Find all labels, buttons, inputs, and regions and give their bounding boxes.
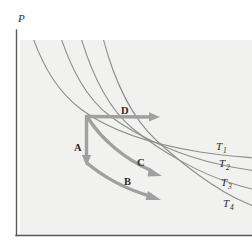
isotherm-label-t4-sub: 4 bbox=[230, 203, 234, 212]
process-arrow-d-shaft bbox=[85, 117, 151, 118]
pv-isotherm-figure: P A B C D T 1 T 2 T 3 T 4 bbox=[0, 0, 252, 247]
isotherm-label-t3-sub: 3 bbox=[227, 182, 232, 191]
process-label-a: A bbox=[74, 142, 82, 153]
isotherm-label-t2-sub: 2 bbox=[226, 163, 230, 172]
isotherm-label-t3-base: T bbox=[221, 176, 228, 188]
process-label-d: D bbox=[121, 105, 129, 116]
isotherm-label-t2-base: T bbox=[219, 157, 226, 169]
y-axis-label: P bbox=[17, 12, 25, 24]
isotherm-label-t1-sub: 1 bbox=[223, 146, 227, 155]
process-label-b: B bbox=[124, 176, 131, 187]
isotherm-label-t4-base: T bbox=[223, 197, 230, 209]
plot-panel-background bbox=[20, 40, 252, 235]
isotherm-label-t1-base: T bbox=[216, 140, 223, 152]
pv-diagram-svg: P A B C D T 1 T 2 T 3 T 4 bbox=[0, 0, 252, 247]
process-label-c: C bbox=[137, 157, 145, 168]
